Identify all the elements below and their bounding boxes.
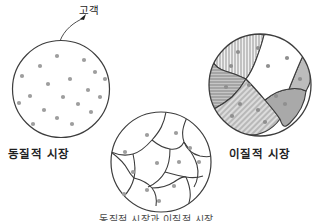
figure-caption: 동질적 시장과 이질적 시장: [99, 211, 213, 221]
homogeneous-market-circle: [13, 41, 110, 138]
panel-homogeneous-market: [13, 41, 110, 138]
figure-canvas: 고객 동질적 시장 이질적 시장 동질적 시장과 이질적 시장: [0, 0, 313, 221]
homogeneous-market-label: 동질적 시장: [8, 145, 69, 161]
heterogeneous-market-label: 이질적 시장: [229, 145, 290, 161]
customer-callout-arrow: [60, 14, 86, 41]
market-segmentation-diagram: [0, 0, 313, 221]
panel-heterogeneous-market: [208, 34, 311, 136]
customer-callout-label: 고객: [79, 2, 100, 17]
panel-segmented-market: [111, 112, 211, 212]
